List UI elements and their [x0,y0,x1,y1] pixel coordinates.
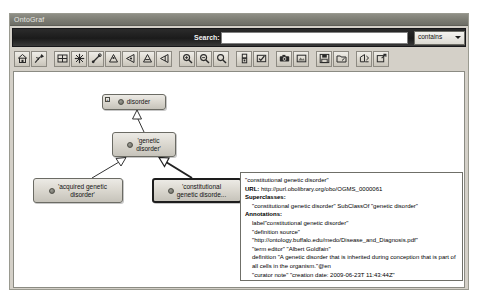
node-detail-tooltip: "constitutional genetic disorder" URL: h… [240,172,463,281]
open-folder-icon[interactable] [333,51,349,67]
tree-horizontal-layout-icon[interactable] [122,51,138,67]
tooltip-entity-name: "constitutional genetic disorder" [245,176,458,185]
save-icon[interactable] [316,51,332,67]
select-tool-icon[interactable] [253,51,269,67]
tooltip-annotation-item: "curator note" "creation date: 2009-06-2… [245,271,458,280]
tooltip-annotation-item: "http://ontology.buffalo.edu/medo/Diseas… [245,236,458,245]
graph-node-label: disorder [127,98,150,106]
class-bullet-icon [118,99,124,105]
tooltip-annotation-item: definition "A genetic disorder that is i… [245,253,458,270]
pin-icon[interactable] [31,51,47,67]
window-title: OntoGraf [14,16,44,23]
graph-node-disorder[interactable]: + disorder [102,94,166,110]
tooltip-superclasses-heading: Superclasses: [245,193,458,202]
camera-icon[interactable] [276,51,292,67]
filter-icon[interactable] [236,51,252,67]
import-icon[interactable] [356,51,372,67]
export-image-icon[interactable] [293,51,309,67]
zoom-reset-icon[interactable] [213,51,229,67]
tree-horizontal-alt-layout-icon[interactable] [156,51,172,67]
tooltip-annotations-heading: Annotations: [245,210,458,219]
window-titlebar: OntoGraf [10,14,468,26]
tooltip-url-label: URL: [245,186,259,192]
tooltip-annotation-item: "definition source" [245,228,458,237]
graph-node-label: 'constitutional genetic disorde... [177,183,227,199]
graph-node-genetic-disorder[interactable]: 'genetic disorder' [112,132,176,157]
expand-node-icon[interactable]: + [105,97,110,102]
search-match-mode-value: contains [418,34,442,41]
zoom-in-icon[interactable] [179,51,195,67]
tree-vertical-layout-icon[interactable] [105,51,121,67]
chevron-down-icon [455,36,461,39]
tooltip-url-value[interactable]: http://purl.obolibrary.org/obo/OGMS_0000… [261,186,382,192]
class-bullet-icon [127,142,133,148]
toolbar [12,49,466,68]
class-bullet-icon [168,188,174,194]
search-bar: Search: contains [12,28,466,47]
tooltip-superclass-item: "constitutional genetic disorder" SubCla… [245,202,458,211]
graph-node-constitutional-genetic-disorder[interactable]: 'constitutional genetic disorde... [152,178,242,203]
radial-layout-icon[interactable] [71,51,87,67]
search-match-mode-select[interactable]: contains [414,31,465,45]
graph-node-acquired-genetic-disorder[interactable]: 'acquired genetic disorder' [33,178,123,203]
share-icon[interactable] [373,51,389,67]
zoom-out-icon[interactable] [196,51,212,67]
tooltip-annotation-item: label"constitutional genetic disorder" [245,219,458,228]
tree-vertical-alt-layout-icon[interactable] [139,51,155,67]
graph-node-label: 'acquired genetic disorder' [58,183,107,199]
graph-canvas[interactable]: + disorder 'genetic disorder' 'acquired … [13,71,465,288]
tooltip-url-row: URL: http://purl.obolibrary.org/obo/OGMS… [245,185,458,194]
class-bullet-icon [49,188,55,194]
graph-canvas-inner: + disorder 'genetic disorder' 'acquired … [14,72,464,287]
search-label: Search: [194,34,220,41]
grid-layout-icon[interactable] [54,51,70,67]
home-icon[interactable] [14,51,30,67]
spring-layout-icon[interactable] [88,51,104,67]
graph-node-label: 'genetic disorder' [136,137,161,153]
search-input[interactable] [221,32,408,44]
ontograf-window: OntoGraf Search: contains [9,13,469,290]
tooltip-annotation-item: "term editor" "Albert Goldfain" [245,245,458,254]
